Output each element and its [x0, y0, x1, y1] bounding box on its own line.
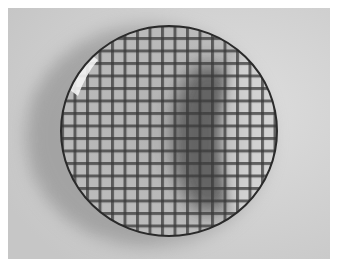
photo-canvas	[8, 8, 330, 259]
photograph	[8, 8, 330, 259]
